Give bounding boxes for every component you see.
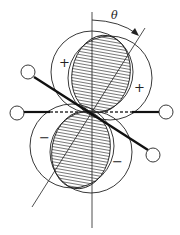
minus-sign-lower-right: −: [112, 155, 123, 168]
theta-label: θ: [111, 10, 118, 21]
plus-sign-upper-left: +: [59, 56, 70, 69]
atom-upper-left: [21, 65, 35, 79]
atom-lower-right: [146, 148, 160, 162]
plus-sign-upper-right: +: [134, 81, 145, 94]
atom-right: [159, 105, 173, 119]
diagram-canvas: [0, 0, 180, 235]
minus-sign-lower-left: −: [39, 131, 50, 144]
atom-left: [10, 106, 24, 120]
arrowhead-icon: [131, 28, 139, 36]
